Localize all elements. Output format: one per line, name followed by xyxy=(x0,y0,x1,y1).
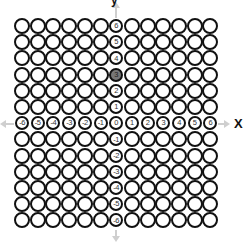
grid-point xyxy=(14,212,30,228)
grid-point xyxy=(61,131,77,147)
axis-number-label: 6 xyxy=(114,22,118,30)
grid-point xyxy=(61,18,77,34)
grid-point xyxy=(124,180,140,196)
grid-point xyxy=(14,131,30,147)
grid-point xyxy=(140,34,156,50)
grid-point xyxy=(124,83,140,99)
grid-point xyxy=(61,164,77,180)
grid-point xyxy=(187,83,203,99)
grid-point xyxy=(140,180,156,196)
axis-number-label: -6 xyxy=(19,119,25,127)
x-axis-label: X xyxy=(234,116,243,131)
grid-point xyxy=(30,34,46,50)
axis-number-label: -5 xyxy=(113,200,119,208)
axis-point: -6 xyxy=(15,116,29,130)
grid-point xyxy=(45,50,61,66)
axis-number-label: -4 xyxy=(113,184,119,192)
grid-point xyxy=(124,99,140,115)
grid-point xyxy=(124,67,140,83)
axis-number-label: 4 xyxy=(114,55,118,63)
grid-point xyxy=(30,148,46,164)
axis-point: 2 xyxy=(141,116,155,130)
grid-point xyxy=(187,212,203,228)
grid-point xyxy=(30,18,46,34)
grid-point xyxy=(155,131,171,147)
grid-point xyxy=(140,99,156,115)
grid-point xyxy=(140,67,156,83)
grid-point xyxy=(77,131,93,147)
axis-point: 6 xyxy=(109,19,123,33)
axis-point: -5 xyxy=(109,197,123,211)
grid-point xyxy=(140,50,156,66)
grid-point xyxy=(45,148,61,164)
grid-point xyxy=(45,99,61,115)
axis-point: 3 xyxy=(156,116,170,130)
grid-point xyxy=(171,212,187,228)
axis-point: -1 xyxy=(94,116,108,130)
axis-number-label: 0 xyxy=(114,119,118,127)
grid-point xyxy=(93,50,109,66)
axis-point: 2 xyxy=(109,84,123,98)
axis-number-label: 1 xyxy=(114,103,118,111)
grid-point xyxy=(14,18,30,34)
axis-number-label: 6 xyxy=(209,119,213,127)
grid-point xyxy=(140,148,156,164)
x-axis-arrowhead-left-icon xyxy=(0,120,6,128)
grid-point xyxy=(14,99,30,115)
axis-point: -3 xyxy=(109,165,123,179)
grid-point xyxy=(14,67,30,83)
axis-number-label: -1 xyxy=(113,136,119,144)
axis-number-label: -5 xyxy=(35,119,41,127)
grid-point xyxy=(187,18,203,34)
grid-point xyxy=(202,34,218,50)
axis-number-label: 2 xyxy=(146,119,150,127)
grid-point xyxy=(155,67,171,83)
grid-point xyxy=(30,83,46,99)
grid-point xyxy=(171,83,187,99)
grid-point xyxy=(93,196,109,212)
axis-point: 4 xyxy=(109,51,123,65)
grid-point xyxy=(14,83,30,99)
axis-number-label: 2 xyxy=(114,87,118,95)
grid-point xyxy=(155,180,171,196)
grid-point xyxy=(202,18,218,34)
axis-point: -2 xyxy=(78,116,92,130)
grid-point xyxy=(93,164,109,180)
grid-point xyxy=(77,196,93,212)
grid-point xyxy=(187,131,203,147)
grid-point xyxy=(30,50,46,66)
grid-point xyxy=(140,196,156,212)
grid-point xyxy=(155,18,171,34)
grid-point xyxy=(30,131,46,147)
axis-number-label: 3 xyxy=(161,119,165,127)
axis-point: -4 xyxy=(109,181,123,195)
grid-point xyxy=(155,196,171,212)
grid-point xyxy=(61,212,77,228)
grid-point xyxy=(155,212,171,228)
x-axis-arrowhead-right-icon xyxy=(224,120,230,128)
axis-number-label: -2 xyxy=(113,152,119,160)
grid-point xyxy=(61,67,77,83)
grid-point xyxy=(171,67,187,83)
grid-point xyxy=(187,34,203,50)
grid-point xyxy=(30,212,46,228)
grid-point xyxy=(14,34,30,50)
grid-point xyxy=(187,148,203,164)
grid-point xyxy=(140,18,156,34)
grid-point xyxy=(77,34,93,50)
grid-point xyxy=(45,67,61,83)
axis-number-label: -1 xyxy=(98,119,104,127)
axis-point: 5 xyxy=(188,116,202,130)
grid-point xyxy=(30,164,46,180)
grid-point xyxy=(77,18,93,34)
grid-point xyxy=(45,180,61,196)
grid-point xyxy=(187,180,203,196)
axis-point: 6 xyxy=(203,116,217,130)
grid-point xyxy=(187,99,203,115)
grid-point xyxy=(171,18,187,34)
grid-point xyxy=(45,212,61,228)
grid-point xyxy=(171,50,187,66)
grid-point xyxy=(61,180,77,196)
grid-point xyxy=(77,148,93,164)
axis-number-label: 5 xyxy=(193,119,197,127)
